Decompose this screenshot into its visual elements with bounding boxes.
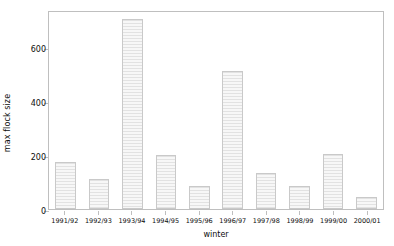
bar <box>289 186 310 209</box>
bar-slot <box>350 12 383 209</box>
bar-slot <box>249 12 282 209</box>
bar-slot <box>316 12 349 209</box>
bar <box>156 155 177 209</box>
x-tick: 1996/97 <box>216 211 250 229</box>
x-tick-label: 1997/98 <box>253 217 280 225</box>
x-tick-label: 2000/01 <box>354 217 381 225</box>
bar <box>222 71 243 209</box>
x-tick-mark <box>64 211 65 215</box>
y-tick-label: 600 <box>31 44 46 53</box>
bar <box>189 186 210 209</box>
bar <box>323 154 344 209</box>
x-tick-mark <box>333 211 334 215</box>
x-tick: 1998/99 <box>283 211 317 229</box>
x-tick-label: 1991/92 <box>51 217 78 225</box>
bar <box>356 197 377 209</box>
x-axis-label: winter <box>48 230 384 239</box>
bar-slot <box>149 12 182 209</box>
x-axis-ticks: 1991/921992/931993/941994/951995/961996/… <box>48 211 384 229</box>
x-tick-label: 1994/95 <box>152 217 179 225</box>
bar <box>256 173 277 209</box>
x-tick-label: 1993/94 <box>118 217 145 225</box>
plot-area: 0200400600 <box>48 11 384 210</box>
x-tick-mark <box>199 211 200 215</box>
x-tick: 1997/98 <box>250 211 284 229</box>
y-tick-label: 400 <box>31 98 46 107</box>
x-tick: 2000/01 <box>350 211 384 229</box>
x-tick-mark <box>98 211 99 215</box>
x-tick-label: 1995/96 <box>186 217 213 225</box>
y-tick-label: 0 <box>41 207 46 216</box>
bar <box>122 19 143 209</box>
x-tick: 1994/95 <box>149 211 183 229</box>
bar-slot <box>183 12 216 209</box>
x-tick-label: 1999/00 <box>320 217 347 225</box>
x-tick: 1995/96 <box>182 211 216 229</box>
bar-slot <box>283 12 316 209</box>
x-tick-label: 1992/93 <box>85 217 112 225</box>
x-tick-mark <box>266 211 267 215</box>
bar-series <box>49 12 383 209</box>
x-tick-mark <box>232 211 233 215</box>
bar-chart-figure: max flock size 0200400600 1991/921992/93… <box>0 0 394 246</box>
x-tick-mark <box>367 211 368 215</box>
y-axis-label: max flock size <box>0 0 14 246</box>
bar <box>55 162 76 209</box>
y-tick-label: 200 <box>31 152 46 161</box>
bar-slot <box>116 12 149 209</box>
x-tick: 1993/94 <box>115 211 149 229</box>
bar-slot <box>49 12 82 209</box>
x-tick-label: 1996/97 <box>219 217 246 225</box>
bar-slot <box>216 12 249 209</box>
bar <box>89 179 110 209</box>
x-tick: 1992/93 <box>82 211 116 229</box>
x-tick-mark <box>131 211 132 215</box>
x-tick-mark <box>299 211 300 215</box>
x-tick: 1991/92 <box>48 211 82 229</box>
bar-slot <box>82 12 115 209</box>
x-tick-label: 1998/99 <box>286 217 313 225</box>
x-tick: 1999/00 <box>317 211 351 229</box>
x-tick-mark <box>165 211 166 215</box>
